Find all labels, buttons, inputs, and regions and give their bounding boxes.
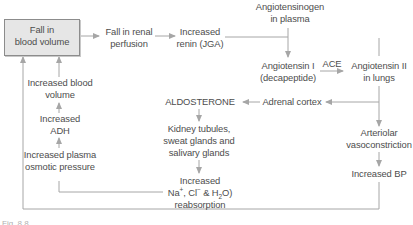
node-label: Angiotensin I bbox=[256, 60, 320, 72]
node-increased-bp: Increased BP bbox=[343, 168, 413, 180]
node-label: (decapeptide) bbox=[256, 72, 320, 84]
node-label: Fall in renal bbox=[99, 26, 159, 38]
node-label: Increased plasma bbox=[20, 149, 100, 161]
node-angiotensin-i: Angiotensin I (decapeptide) bbox=[256, 60, 320, 84]
node-label-ions: Na+, Cl− & H2O) bbox=[160, 187, 240, 199]
node-label: Fall in bbox=[5, 24, 79, 36]
node-label: ADH bbox=[34, 125, 86, 137]
node-label: Angiotensinogen bbox=[250, 1, 330, 13]
node-label: Arteriolar bbox=[341, 127, 413, 139]
node-aldosterone: ALDOSTERONE bbox=[160, 96, 240, 108]
node-increased-blood-volume: Increased blood volume bbox=[24, 77, 96, 101]
node-arteriolar-vasoconstriction: Arteriolar vasoconstriction bbox=[341, 127, 413, 151]
node-kidney-tubules: Kidney tubules, sweat glands and salivar… bbox=[157, 123, 241, 159]
node-increased-adh: Increased ADH bbox=[34, 113, 86, 137]
label-ace-enzyme: ACE bbox=[320, 58, 344, 70]
node-adrenal-cortex: Adrenal cortex bbox=[258, 96, 326, 108]
node-label: Increased blood bbox=[24, 77, 96, 89]
node-label: in plasma bbox=[250, 13, 330, 25]
node-angiotensin-ii: Angiotensin II in lungs bbox=[345, 60, 413, 84]
node-label: in lungs bbox=[345, 72, 413, 84]
diagram: Fall in blood volume Fall in renal perfu… bbox=[0, 0, 413, 225]
node-label: volume bbox=[24, 89, 96, 101]
node-increased-renin: Increased renin (JGA) bbox=[172, 26, 228, 50]
node-increased-reabsorption: Increased Na+, Cl− & H2O) reabsorption bbox=[160, 175, 240, 211]
node-label: renin (JGA) bbox=[172, 38, 228, 50]
node-angiotensinogen: Angiotensinogen in plasma bbox=[250, 1, 330, 25]
node-label: ALDOSTERONE bbox=[160, 96, 240, 108]
node-fall-in-blood-volume: Fall in blood volume bbox=[4, 19, 80, 56]
node-label: Angiotensin II bbox=[345, 60, 413, 72]
node-fall-in-renal-perfusion: Fall in renal perfusion bbox=[99, 26, 159, 50]
node-label: salivary glands bbox=[157, 147, 241, 159]
node-label: Increased bbox=[34, 113, 86, 125]
node-label: Increased bbox=[172, 26, 228, 38]
node-label: vasoconstriction bbox=[341, 139, 413, 151]
node-label: Kidney tubules, bbox=[157, 123, 241, 135]
node-label: blood volume bbox=[5, 36, 79, 48]
node-increased-osmotic-pressure: Increased plasma osmotic pressure bbox=[20, 149, 100, 173]
node-label: osmotic pressure bbox=[20, 161, 100, 173]
node-label: perfusion bbox=[99, 38, 159, 50]
node-label: ACE bbox=[320, 58, 344, 70]
node-label: sweat glands and bbox=[157, 135, 241, 147]
figure-caption: Fig. 8.8 bbox=[2, 219, 29, 225]
node-label: reabsorption bbox=[160, 199, 240, 211]
node-label: Adrenal cortex bbox=[258, 96, 326, 108]
node-label: Increased BP bbox=[343, 168, 413, 180]
